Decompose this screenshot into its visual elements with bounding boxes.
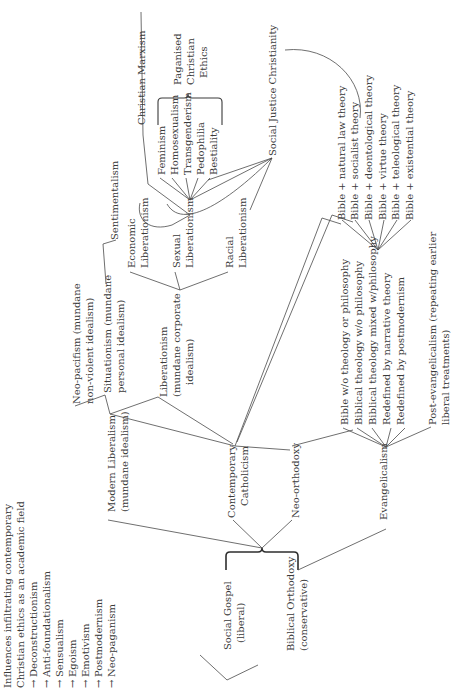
connector-line bbox=[250, 158, 272, 210]
influence-label: Egoism bbox=[67, 639, 78, 677]
liberationism-sublabel: (mundane corporate bbox=[171, 293, 182, 397]
modern-liberalism-label: Modern Liberalism bbox=[106, 415, 117, 512]
connector-line bbox=[190, 178, 210, 200]
connector-line bbox=[180, 272, 228, 290]
connector-line bbox=[175, 272, 180, 290]
connector-line bbox=[343, 428, 386, 447]
christian-marxism-label: Christian Marxism bbox=[136, 30, 147, 125]
situationism-sublabel: personal idealism) bbox=[115, 299, 126, 393]
paganised-ethics: Feminism Homosexualism Transgenderism Pe… bbox=[156, 33, 222, 175]
connector-line bbox=[292, 430, 353, 446]
connector-line bbox=[186, 178, 190, 200]
influences-list: Influences infiltrating contemporary Chr… bbox=[2, 501, 117, 688]
connector-line bbox=[262, 520, 292, 548]
paganised-item: Bestiality bbox=[208, 127, 219, 175]
modern-liberalism-sublabel: (mundane idealism) bbox=[119, 411, 130, 512]
influence-label: Neo-paganism bbox=[106, 603, 117, 677]
bible-theory-item: Bible + teleological theory bbox=[390, 84, 401, 220]
connector-line bbox=[108, 520, 262, 548]
evangelical-item: Redefined by postmodernism bbox=[395, 276, 406, 425]
paganised-item: Pedophilia bbox=[195, 122, 206, 175]
root-split: Social Gospel (liberal) Biblical Orthodo… bbox=[200, 556, 309, 680]
arrow-icon: → bbox=[54, 679, 65, 688]
sexual-liberationism-label: Sexual bbox=[171, 234, 182, 268]
evangelical-item: Biblical theology mixed w/philosophy bbox=[367, 236, 378, 425]
arrow-icon: → bbox=[80, 679, 91, 688]
influence-item: → Egoism bbox=[67, 639, 78, 688]
bible-theory-item: Bible + deontological theory bbox=[363, 74, 374, 220]
influence-label: Sensualism bbox=[54, 619, 65, 677]
connector-line bbox=[298, 529, 386, 570]
paganised-sublabel2: Ethics bbox=[198, 46, 209, 78]
influence-label: Emotivism bbox=[80, 623, 91, 677]
paganised-label: Paganised bbox=[172, 33, 183, 85]
evangelical-item: Biblical theology w/o philosophy bbox=[353, 260, 364, 425]
idealisms: Neo-pacifism (mundane non-violent ideali… bbox=[71, 160, 195, 406]
racial-liberationism-sublabel: Liberationism bbox=[237, 197, 248, 268]
influence-item: → Sensualism bbox=[54, 619, 65, 688]
connector-line bbox=[386, 427, 431, 447]
paganised-item: Homosexualism bbox=[169, 94, 180, 175]
christian-ethics-diagram: Influences infiltrating contemporary Chr… bbox=[0, 0, 473, 698]
bible-plus-theory-list: Bible + natural law theory Bible + socia… bbox=[336, 74, 415, 220]
contemporary-catholicism-label: Contemporary bbox=[226, 445, 237, 518]
influence-item: → Anti-foundationalism bbox=[41, 571, 52, 688]
influence-label: Postmodernism bbox=[93, 598, 104, 677]
arrow-icon: → bbox=[28, 679, 39, 688]
influence-item: → Neo-paganism bbox=[106, 603, 117, 688]
liberationism-label: Liberationism bbox=[158, 326, 169, 397]
connector-line bbox=[200, 655, 258, 680]
paganised-sublabel: Christian bbox=[185, 38, 196, 85]
arrow-icon: → bbox=[67, 679, 78, 688]
influence-label: Anti-foundationalism bbox=[41, 571, 52, 678]
neo-pacifism-label: Neo-pacifism (mundane bbox=[71, 283, 82, 404]
connector-line bbox=[237, 215, 332, 442]
situationism-label: Situationism (mundane bbox=[102, 275, 113, 393]
sentimentalism-label: Sentimentalism bbox=[109, 160, 120, 240]
post-evangelicalism-label: Post-evangelicalism (repeating earlier bbox=[427, 232, 438, 425]
connector-line bbox=[342, 220, 378, 250]
connector-line bbox=[105, 395, 110, 414]
social-gospel-sublabel: (liberal) bbox=[235, 602, 246, 643]
economic-liberationism-sublabel: Liberationism bbox=[139, 197, 150, 268]
bible-theory-item: Bible + existential theory bbox=[404, 90, 415, 220]
paganised-item: Feminism bbox=[156, 125, 167, 175]
bible-theory-item: Bible + socialist theory bbox=[349, 101, 360, 220]
neo-orthodoxy-label: Neo-orthodoxy bbox=[290, 443, 301, 518]
influences-heading-line1: Influences infiltrating contemporary bbox=[2, 503, 13, 688]
racial-liberationism-label: Racial bbox=[224, 236, 235, 268]
liberal-branch: Modern Liberalism (mundane idealism) Con… bbox=[106, 411, 389, 570]
influence-item: → Emotivism bbox=[80, 623, 91, 688]
influence-item: → Postmodernism bbox=[93, 598, 104, 688]
connector-line bbox=[130, 272, 180, 290]
evangelical-item: Redefined by narrative theory bbox=[381, 272, 392, 425]
arrow-icon: → bbox=[41, 679, 52, 688]
connector-line bbox=[357, 428, 386, 447]
arrow-icon: → bbox=[106, 679, 117, 688]
economic-liberationism-label: Economic bbox=[126, 218, 137, 268]
evangelicalism-label: Evangelicalism bbox=[378, 443, 389, 520]
sexual-liberationism-sublabel: Liberationism bbox=[184, 197, 195, 268]
influences-heading-line2: Christian ethics as an academic field bbox=[15, 501, 26, 688]
contemporary-catholicism-sublabel: Catholicism bbox=[239, 446, 250, 506]
liberationism-sublabel2: idealism) bbox=[184, 339, 195, 385]
influence-label: Deconstructionism bbox=[28, 581, 39, 677]
biblical-orthodoxy-label: Biblical Orthodoxy bbox=[285, 556, 296, 651]
evangelical-item: Bible w/o theology or philosophy bbox=[339, 259, 350, 425]
post-evangelicalism-sublabel: liberal treatments) bbox=[440, 329, 451, 425]
arrow-icon: → bbox=[93, 679, 104, 688]
social-justice-christianity-label: Social Justice Christianity bbox=[267, 24, 278, 156]
biblical-orthodoxy-sublabel: (conservative) bbox=[298, 579, 309, 651]
influence-item: → Deconstructionism bbox=[28, 581, 39, 688]
evangelical-branch: Bible w/o theology or philosophy Biblica… bbox=[322, 215, 451, 447]
bible-theory-item: Bible + natural law theory bbox=[336, 85, 347, 220]
social-gospel-label: Social Gospel bbox=[222, 581, 233, 650]
paganised-item: Transgenderism bbox=[182, 92, 193, 175]
connector-line bbox=[235, 218, 322, 446]
neo-pacifism-sublabel: non-violent idealism) bbox=[84, 298, 95, 404]
bible-theory-item: Bible + virtue theory bbox=[377, 113, 388, 220]
